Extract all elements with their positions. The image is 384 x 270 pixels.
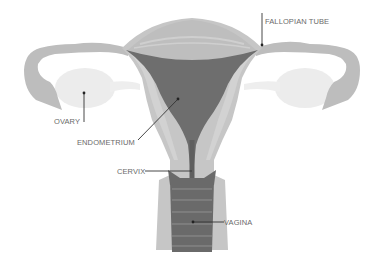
fallopian-tube-label: FALLOPIAN TUBE (265, 17, 329, 26)
vagina-marker (192, 221, 195, 224)
right-ovarian-ligament (244, 81, 280, 92)
ovary-label: OVARY (54, 117, 80, 126)
endometrium-marker (177, 98, 180, 101)
vagina-canal (170, 180, 214, 252)
left-ovarian-ligament (110, 81, 140, 92)
cervix-label: CERVIX (117, 167, 145, 176)
ovary-marker (83, 92, 86, 95)
endometrium-label: ENDOMETRIUM (77, 138, 135, 147)
left-ovary (55, 68, 115, 108)
fallopian-tube-marker (261, 44, 264, 47)
uterus-diagram: FALLOPIAN TUBE OVARY ENDOMETRIUM CERVIX … (0, 0, 384, 270)
vagina-label: VAGINA (224, 218, 252, 227)
cervical-canal (190, 140, 195, 178)
uterine-fundus (128, 20, 256, 60)
